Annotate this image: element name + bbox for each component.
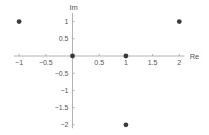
ticks <box>19 22 179 125</box>
axes <box>14 13 185 128</box>
x-tick-label: −0.5 <box>39 59 53 66</box>
y-tick-label: −0.5 <box>55 70 69 77</box>
x-tick-label: 1.5 <box>148 59 158 66</box>
tick-labels: −1−0.50.511.5210.5−0.5−1−1.5−2 <box>15 18 181 128</box>
data-point <box>124 54 129 59</box>
x-tick-label: 1 <box>124 59 128 66</box>
x-axis-label: Re <box>190 52 200 61</box>
data-point <box>177 19 182 24</box>
y-tick-label: 0.5 <box>59 35 69 42</box>
y-tick-label: −1 <box>61 87 69 94</box>
data-point <box>124 122 129 127</box>
argand-plot: −1−0.50.511.5210.5−0.5−1−1.5−2 Re Im <box>0 0 209 135</box>
data-points <box>17 19 182 127</box>
y-tick-label: −1.5 <box>55 104 69 111</box>
y-tick-label: 1 <box>65 18 69 25</box>
y-axis-label: Im <box>70 3 78 12</box>
y-tick-label: −2 <box>61 121 69 128</box>
x-tick-label: −1 <box>15 59 23 66</box>
x-tick-label: 2 <box>177 59 181 66</box>
x-tick-label: 0.5 <box>94 59 104 66</box>
data-point <box>17 19 22 24</box>
data-point <box>70 54 75 59</box>
